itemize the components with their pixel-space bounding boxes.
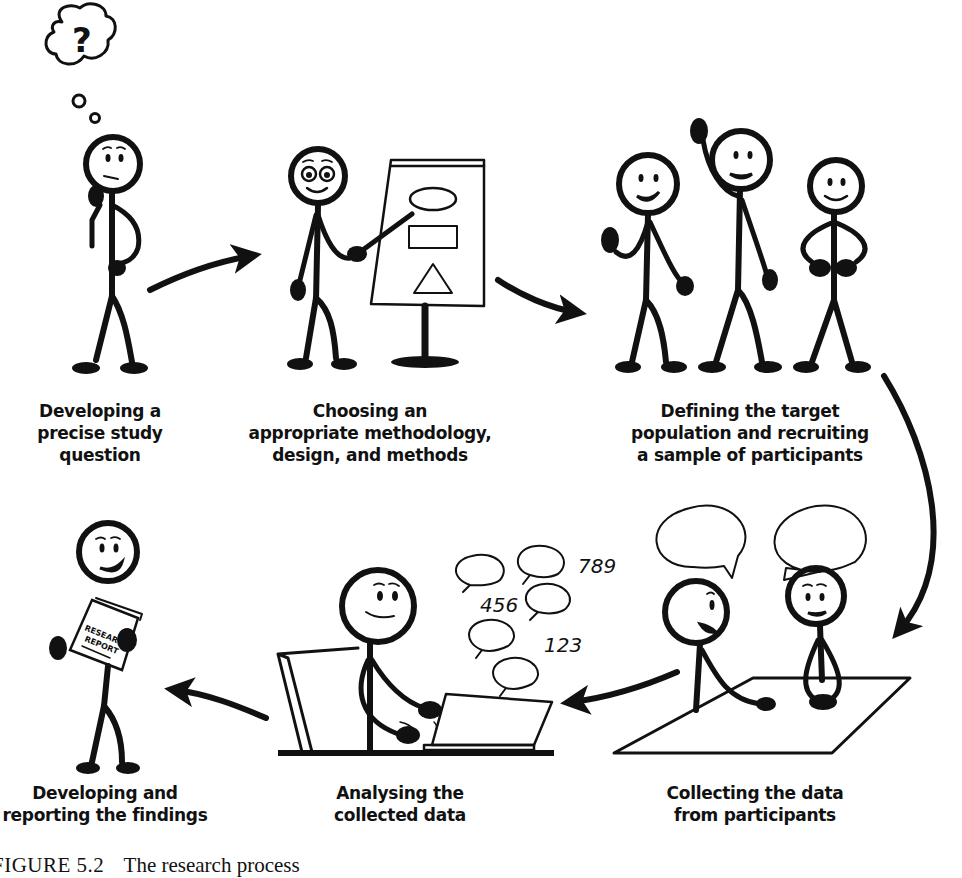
desk	[278, 750, 554, 756]
speech-bubble-icon	[656, 506, 745, 578]
laptop-icon	[424, 694, 552, 750]
speech-bubble-icon	[518, 546, 564, 584]
flow-arrow-4-5	[572, 672, 677, 702]
step2-presenter	[287, 149, 484, 370]
flow-arrow-2-3	[498, 280, 575, 312]
flow-arrow-5-6	[176, 690, 266, 718]
caption-number: FIGURE 5.2	[0, 853, 104, 877]
data-number: 123	[544, 633, 582, 657]
step4-label: Collecting the data from participants	[645, 782, 865, 826]
step1-label: Developing a precise study question	[25, 400, 175, 466]
data-number: 789	[578, 554, 616, 578]
step5-label: Analysing the collected data	[330, 782, 470, 826]
speech-bubble-icon	[469, 620, 514, 658]
flipchart-icon	[371, 160, 484, 368]
data-bubbles: 789 456 123	[456, 546, 616, 696]
speech-bubble-icon	[526, 584, 570, 620]
table-surface	[614, 678, 910, 753]
figure-caption: FIGURE 5.2 The research process	[0, 853, 300, 878]
step6-reporting: RESEARCH REPORT	[49, 523, 142, 774]
data-number: 456	[480, 593, 518, 617]
caption-title: The research process	[124, 853, 300, 877]
step3-participants	[601, 118, 871, 373]
step6-label: Developing and reporting the findings	[0, 782, 220, 826]
step2-label: Choosing an appropriate methodology, des…	[240, 400, 500, 466]
flow-arrow-1-2	[150, 256, 250, 290]
step5-analysis: 789 456 123	[278, 546, 616, 756]
chair-icon	[278, 648, 358, 752]
thought-cloud-icon: ?	[46, 4, 115, 123]
speech-bubble-icon	[456, 555, 504, 592]
step4-data-collection	[614, 505, 910, 753]
step1-thinking-person: ?	[46, 4, 148, 374]
question-mark: ?	[72, 20, 92, 60]
speech-bubble-icon	[493, 658, 538, 696]
flow-arrow-3-4	[884, 376, 934, 630]
step3-label: Defining the target population and recru…	[615, 400, 885, 466]
